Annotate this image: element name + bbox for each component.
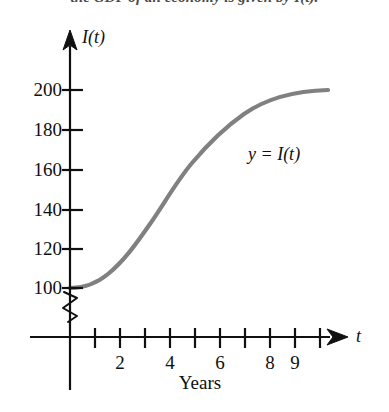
y-tick-label-120: 120 xyxy=(6,238,62,260)
x-tick-label-4: 4 xyxy=(157,352,183,374)
x-tick-label-2: 2 xyxy=(107,352,133,374)
y-axis-label-I-of-t: I(t) xyxy=(82,27,105,48)
y-tick-label-100: 100 xyxy=(6,277,62,299)
data-curve-y-of-t xyxy=(70,90,328,288)
x-tick-label-9: 9 xyxy=(282,352,308,374)
y-tick-label-200: 200 xyxy=(6,79,62,101)
figure-container: the GDP of an economy is given by I(t). xyxy=(0,0,389,412)
x-axis-title-years: Years xyxy=(150,372,250,394)
x-tick-label-8: 8 xyxy=(257,352,283,374)
y-tick-label-140: 140 xyxy=(6,199,62,221)
x-axis-label-t: t xyxy=(356,326,361,347)
y-tick-label-160: 160 xyxy=(6,159,62,181)
x-tick-label-6: 6 xyxy=(207,352,233,374)
y-tick-label-180: 180 xyxy=(6,119,62,141)
curve-annotation-y-equals-I-of-t: y = I(t) xyxy=(248,144,300,165)
x-axis-arrowhead-icon xyxy=(327,329,348,345)
y-axis-ticks xyxy=(62,90,83,288)
